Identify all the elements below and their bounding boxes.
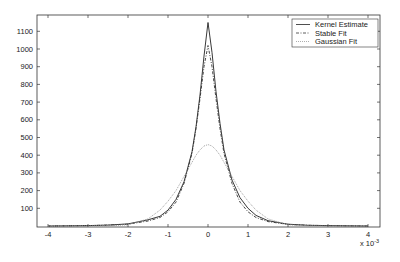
y-tick-label: 600 [20,115,33,124]
y-tick-label: 1000 [16,45,33,54]
x-tick-label: -2 [125,230,132,239]
y-tick-label: 400 [20,151,33,160]
x-tick-label: -1 [165,230,172,239]
x-tick-label: 3 [326,230,330,239]
y-tick-label: 700 [20,98,33,107]
y-tick-label: 500 [20,133,33,142]
y-tick-label: 200 [20,186,33,195]
y-tick-label: 100 [20,204,33,213]
legend-gaussian-label: Gaussian Fit [315,37,358,46]
x-tick-label: 0 [206,230,210,239]
y-tick-label: 800 [20,80,33,89]
x-tick-label: 1 [246,230,250,239]
x-tick-label: 4 [366,230,370,239]
y-tick-label: 1100 [17,27,33,36]
x-multiplier-label: x 10-3 [360,238,379,248]
y-tick-label: 300 [20,168,33,177]
x-tick-label: 2 [286,230,290,239]
density-chart: 10020030040050060070080090010001100 -4-3… [0,0,400,262]
x-tick-label: -4 [45,230,52,239]
x-tick-label: -3 [85,230,92,239]
legend: Kernel Estimate Stable Fit Gaussian Fit [292,19,378,47]
y-tick-label: 900 [20,62,33,71]
